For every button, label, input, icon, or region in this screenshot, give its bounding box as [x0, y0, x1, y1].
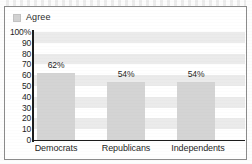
- bar-independents: [177, 82, 215, 140]
- y-tick-20: 20: [1, 114, 31, 123]
- y-axis-tick-labels: 100% 90 80 70 60 50 40 30 20 10 0: [0, 0, 31, 164]
- x-tick-independents: Independents: [158, 143, 238, 153]
- y-axis-line: [32, 30, 34, 142]
- y-tick-40: 40: [1, 93, 31, 102]
- y-tick-10: 10: [1, 125, 31, 134]
- x-tick-republicans: Republicans: [88, 143, 164, 153]
- y-tick-30: 30: [1, 104, 31, 113]
- grid-band: [33, 32, 245, 43]
- plot-area: [33, 32, 245, 140]
- bar-democrats: [37, 73, 75, 140]
- y-tick-60: 60: [1, 71, 31, 80]
- y-tick-70: 70: [1, 60, 31, 69]
- bar-value-label-democrats: 62%: [37, 61, 75, 70]
- y-tick-50: 50: [1, 82, 31, 91]
- x-axis-line: [32, 140, 245, 141]
- y-tick-80: 80: [1, 50, 31, 59]
- bar-republicans: [107, 82, 145, 140]
- x-tick-democrats: Democrats: [18, 143, 94, 153]
- chart-screenshot: Agree 100% 90 80 70 60 50 40 30 20 10 0 …: [0, 0, 252, 164]
- bar-value-label-independents: 54%: [177, 70, 215, 79]
- y-tick-100: 100%: [1, 28, 31, 37]
- y-tick-90: 90: [1, 39, 31, 48]
- bar-value-label-republicans: 54%: [107, 70, 145, 79]
